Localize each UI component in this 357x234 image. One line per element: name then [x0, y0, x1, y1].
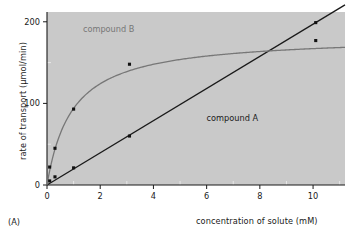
x-axis-label: concentration of solute (mM): [196, 216, 318, 226]
panel-label: (A): [8, 217, 20, 227]
y-axis-tick-label: 0: [35, 180, 40, 190]
data-point-marker: [128, 134, 131, 137]
x-axis-tick-label: 0: [44, 191, 49, 201]
plot-background: [47, 12, 345, 185]
chart-plot: 02468100100200compound Acompound B: [0, 0, 357, 234]
data-point-marker: [314, 39, 317, 42]
data-point-marker: [72, 166, 75, 169]
y-axis-label: rate of transport (µmol/min): [18, 26, 28, 176]
data-point-marker: [314, 21, 317, 24]
data-point-marker: [72, 108, 75, 111]
data-point-marker: [48, 166, 51, 169]
series-annotation-label: compound A: [207, 113, 259, 123]
x-axis-tick-label: 2: [98, 191, 103, 201]
x-axis-tick-label: 4: [151, 191, 156, 201]
x-axis-tick-label: 10: [308, 191, 318, 201]
data-point-marker: [53, 175, 56, 178]
x-axis-tick-label: 8: [257, 191, 262, 201]
figure-panel: 02468100100200compound Acompound B rate …: [0, 0, 357, 234]
data-point-marker: [128, 63, 131, 66]
series-annotation-label: compound B: [83, 24, 135, 34]
data-point-marker: [53, 147, 56, 150]
data-point-marker: [48, 179, 51, 182]
x-axis-tick-label: 6: [204, 191, 209, 201]
